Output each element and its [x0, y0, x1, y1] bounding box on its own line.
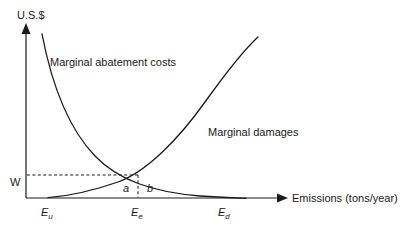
x-axis-label: Emissions (tons/year) — [292, 192, 398, 204]
marginal-damages-label: Marginal damages — [208, 126, 299, 138]
tick-sub-ee: e — [138, 212, 143, 221]
tick-sub-eu: u — [48, 212, 53, 221]
tick-label-ed: Ed — [218, 206, 230, 221]
area-label-b: b — [147, 182, 153, 194]
marginal-abatement-costs-label: Marginal abatement costs — [50, 56, 176, 68]
x-axis-arrow-icon — [277, 194, 288, 203]
tick-label-ee: Ee — [131, 206, 143, 221]
y-axis-label: U.S.$ — [17, 9, 45, 21]
area-label-a: a — [123, 182, 129, 194]
economics-diagram: U.S.$ Emissions (tons/year) Marginal aba… — [0, 0, 401, 230]
tick-sub-ed: d — [225, 212, 230, 221]
diagram-canvas: U.S.$ Emissions (tons/year) Marginal aba… — [0, 0, 401, 230]
tick-label-eu: Eu — [41, 206, 53, 221]
price-level-label: W — [10, 176, 21, 188]
y-axis-arrow-icon — [22, 23, 31, 34]
